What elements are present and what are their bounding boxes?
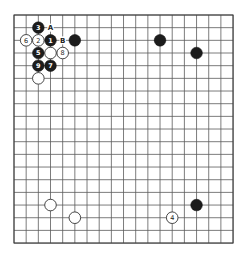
- go-board: 123456789 AB: [0, 0, 248, 258]
- white-stone-disc: [45, 47, 57, 59]
- move-number: 7: [48, 62, 53, 70]
- black-stone: [154, 35, 166, 47]
- black-stone: 3: [33, 22, 45, 34]
- white-stone: 8: [57, 47, 69, 59]
- move-number: 3: [36, 24, 41, 32]
- black-stone: 1: [45, 35, 57, 47]
- white-stone: 4: [166, 212, 178, 224]
- black-stone: [191, 199, 203, 211]
- black-stone-disc: [154, 35, 166, 47]
- black-stone: [191, 47, 203, 59]
- white-stone: [33, 73, 45, 85]
- black-stone: 5: [33, 47, 45, 59]
- white-stone: [69, 212, 81, 224]
- white-stone: [45, 199, 57, 211]
- move-number: 1: [48, 37, 53, 45]
- black-stone-disc: [191, 47, 203, 59]
- white-stone: [45, 47, 57, 59]
- white-stone: 6: [20, 35, 32, 47]
- move-number: 4: [170, 214, 174, 222]
- white-stone-disc: [33, 73, 45, 85]
- move-number: 5: [36, 49, 41, 57]
- black-stone: [69, 35, 81, 47]
- white-stone: 2: [33, 35, 45, 47]
- black-stone: 7: [45, 60, 57, 72]
- black-stone: 9: [33, 60, 45, 72]
- point-label: B: [60, 37, 65, 45]
- move-number: 2: [36, 37, 40, 45]
- move-number: 6: [24, 37, 28, 45]
- go-board-canvas: 123456789 AB: [0, 0, 248, 258]
- move-number: 9: [36, 62, 41, 70]
- black-stone-disc: [69, 35, 81, 47]
- move-number: 8: [61, 49, 65, 57]
- point-label: A: [48, 24, 54, 32]
- black-stone-disc: [191, 199, 203, 211]
- white-stone-disc: [45, 199, 57, 211]
- white-stone-disc: [69, 212, 81, 224]
